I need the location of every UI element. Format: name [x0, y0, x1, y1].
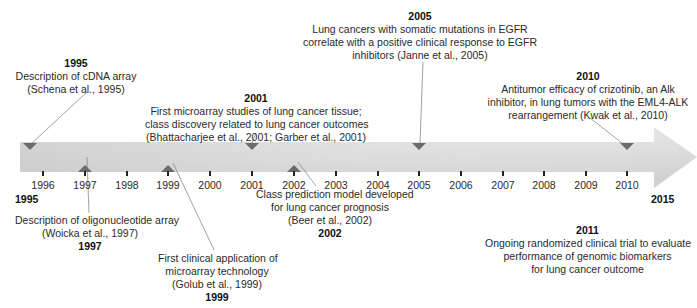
event-year: 2005	[298, 10, 542, 23]
event-2010: 2010 Antitumor efficacy of crizotinib, a…	[478, 70, 697, 122]
event-1999: First clinical application of microarray…	[158, 252, 276, 304]
tick-2004	[377, 171, 379, 176]
tick-2000	[209, 171, 211, 176]
event-year: 2011	[485, 224, 690, 237]
event-text: Ongoing randomized clinical trial to eva…	[485, 237, 690, 250]
tick-label: 1997	[65, 179, 105, 191]
event-year: 2002	[256, 227, 404, 240]
event-2001: 2001 First microarray studies of lung ca…	[145, 92, 367, 144]
event-citation: (Bhattacharjee et al., 2001; Garber et a…	[145, 131, 367, 144]
timeline-start-label: 1995	[15, 193, 38, 205]
event-text: Lung cancers with somatic mutations in E…	[298, 23, 542, 36]
event-citation: (Beer et al., 2002)	[256, 214, 404, 227]
tick-2007	[502, 171, 504, 176]
tick-label: 1999	[148, 179, 188, 191]
event-text: Description of oligonucleotide array	[15, 214, 165, 227]
event-citation: (Woicka et al., 1997)	[15, 227, 165, 240]
tick-2009	[585, 171, 587, 176]
tick-label: 2007	[483, 179, 523, 191]
event-citation: inhibitors (Janne et al., 2005)	[298, 49, 542, 62]
event-year: 1997	[15, 240, 165, 253]
tick-2002	[293, 171, 295, 176]
event-text: performance of genomic biomarkers	[485, 250, 690, 263]
tick-1998	[126, 171, 128, 176]
tick-1997	[84, 171, 86, 176]
event-text: inhibitor, in lung tumors with the EML4-…	[478, 96, 697, 109]
tick-2008	[543, 171, 545, 176]
event-text: for lung cancer outcome	[485, 263, 690, 276]
tick-2001	[251, 171, 253, 176]
event-citation: rearrangement (Kwak et al., 2010)	[478, 109, 697, 122]
event-text: class discovery related to lung cancer o…	[145, 118, 367, 131]
tick-label: 1998	[107, 179, 147, 191]
event-year: 2001	[145, 92, 367, 105]
tick-label: 1996	[23, 179, 63, 191]
tick-2003	[335, 171, 337, 176]
tick-1999	[167, 171, 169, 176]
event-year: 1999	[158, 291, 276, 304]
event-1995: 1995 Description of cDNA array (Schena e…	[10, 57, 142, 96]
event-2005: 2005 Lung cancers with somatic mutations…	[298, 10, 542, 62]
event-text: correlate with a positive clinical respo…	[298, 36, 542, 49]
event-year: 2010	[478, 70, 697, 83]
tick-label: 2008	[524, 179, 564, 191]
event-text: First microarray studies of lung cancer …	[145, 105, 367, 118]
event-2011: 2011 Ongoing randomized clinical trial t…	[485, 224, 690, 276]
tick-label: 2000	[190, 179, 230, 191]
event-text: microarray technology	[158, 265, 276, 278]
event-year: 1995	[10, 57, 142, 70]
tick-label: 2010	[607, 179, 647, 191]
event-text: Description of cDNA array	[10, 70, 142, 83]
tick-2010	[626, 171, 628, 176]
tick-label: 2006	[441, 179, 481, 191]
tick-label: 2009	[566, 179, 606, 191]
event-text: Antitumor efficacy of crizotinib, an Alk	[478, 83, 697, 96]
tick-2006	[460, 171, 462, 176]
event-1997: Description of oligonucleotide array (Wo…	[15, 214, 165, 253]
tick-1996	[42, 171, 44, 176]
event-citation: (Golub et al., 1999)	[158, 278, 276, 291]
event-2002: Class prediction model developed for lun…	[256, 188, 404, 240]
event-citation: (Schena et al., 1995)	[10, 83, 142, 96]
event-text: First clinical application of	[158, 252, 276, 265]
tick-2005	[418, 171, 420, 176]
event-text: Class prediction model developed	[256, 188, 404, 201]
timeline-end-label: 2015	[651, 193, 674, 205]
event-text: for lung cancer prognosis	[256, 201, 404, 214]
